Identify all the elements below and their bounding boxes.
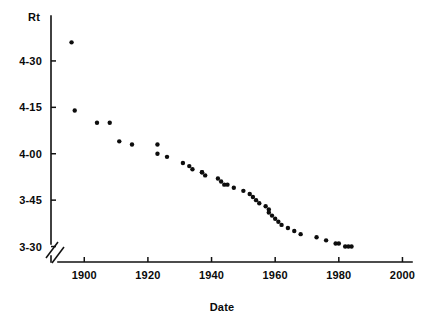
axis-titles-layer: RtDate <box>28 11 234 313</box>
data-point <box>257 201 261 205</box>
data-point <box>108 121 112 125</box>
x-axis-title: Date <box>210 301 235 313</box>
x-tick-label: 2000 <box>390 269 415 281</box>
data-point <box>279 223 283 227</box>
data-point <box>267 210 271 214</box>
data-point <box>270 213 274 217</box>
chart-figure: 4-304-154-003-453-30 1900192019401960198… <box>0 0 426 327</box>
data-point <box>117 139 121 143</box>
data-point <box>130 142 134 146</box>
y-axis: 4-304-154-003-453-30 <box>19 16 56 262</box>
data-point <box>241 189 245 193</box>
data-point <box>298 232 302 236</box>
data-point <box>200 170 204 174</box>
x-tick-label: 1940 <box>199 269 224 281</box>
data-point <box>203 173 207 177</box>
x-tick-label: 1900 <box>72 269 97 281</box>
axis-break-mark <box>46 242 58 258</box>
data-point <box>337 241 341 245</box>
data-point <box>73 108 77 112</box>
data-point <box>216 176 220 180</box>
y-tick-label: 3-30 <box>19 241 42 253</box>
data-point <box>95 121 99 125</box>
x-tick-label: 1920 <box>135 269 160 281</box>
data-point <box>251 195 255 199</box>
data-point <box>69 40 73 44</box>
y-tick-label: 4-30 <box>19 55 42 67</box>
data-point <box>349 244 353 248</box>
data-point <box>219 179 223 183</box>
data-point <box>187 164 191 168</box>
data-point <box>263 204 267 208</box>
x-axis: 190019201940196019802000 <box>46 242 415 281</box>
data-point <box>248 192 252 196</box>
data-point <box>324 238 328 242</box>
data-point <box>232 186 236 190</box>
data-point <box>165 155 169 159</box>
data-points-layer <box>69 40 353 249</box>
y-axis-title: Rt <box>28 11 40 23</box>
data-point <box>181 161 185 165</box>
y-tick-label: 3-45 <box>19 194 42 206</box>
data-point <box>190 167 194 171</box>
data-point <box>286 226 290 230</box>
x-tick-label: 1980 <box>326 269 351 281</box>
data-point <box>276 220 280 224</box>
data-point <box>155 152 159 156</box>
data-point <box>292 229 296 233</box>
axis-break-mark <box>52 247 64 263</box>
x-tick-label: 1960 <box>263 269 288 281</box>
data-point <box>273 216 277 220</box>
data-point <box>254 198 258 202</box>
y-tick-label: 4-15 <box>19 101 42 113</box>
data-point <box>225 182 229 186</box>
data-point <box>155 142 159 146</box>
data-point <box>314 235 318 239</box>
y-tick-label: 4-00 <box>19 148 42 160</box>
scatter-plot: 4-304-154-003-453-30 1900192019401960198… <box>0 0 426 327</box>
